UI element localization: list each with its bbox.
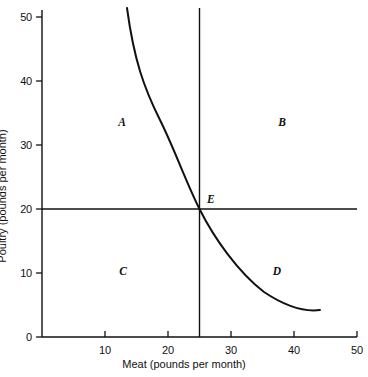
y-tick-label-0: 0 (10, 331, 32, 343)
x-tick-label-20: 20 (162, 344, 174, 356)
y-tick-label-40: 40 (10, 75, 32, 87)
y-axis-title: Poultry (pounds per month) (0, 129, 8, 262)
y-tick-label-20: 20 (10, 203, 32, 215)
x-axis-ticks (105, 331, 357, 337)
region-label-d: D (273, 265, 281, 277)
x-tick-label-50: 50 (351, 344, 363, 356)
point-label-e: E (207, 193, 215, 205)
x-axis-title: Meat (pounds per month) (122, 358, 246, 370)
y-tick-label-50: 50 (10, 11, 32, 23)
region-label-c: C (119, 265, 127, 277)
x-tick-label-10: 10 (99, 344, 111, 356)
x-tick-label-30: 30 (225, 344, 237, 356)
y-axis-ticks (36, 17, 42, 337)
y-tick-label-30: 30 (10, 139, 32, 151)
indifference-curve (127, 8, 320, 310)
plot-area (0, 0, 368, 377)
region-label-b: B (278, 116, 286, 128)
region-label-a: A (118, 116, 126, 128)
y-tick-label-10: 10 (10, 267, 32, 279)
x-tick-label-40: 40 (288, 344, 300, 356)
indifference-curve-figure: 50 40 30 20 10 0 10 20 30 40 50 Meat (po… (0, 0, 368, 377)
